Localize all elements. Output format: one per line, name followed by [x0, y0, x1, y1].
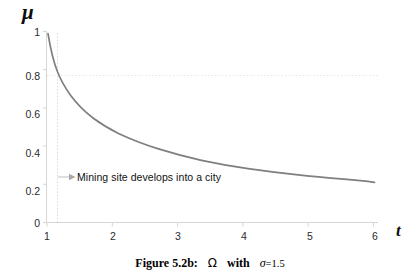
annotation-arrow-icon [58, 174, 76, 180]
x-axis-ticks [47, 223, 374, 227]
caption-omega-symbol: Ω [208, 256, 217, 270]
plot-area [0, 0, 420, 280]
figure-caption: Figure 5.2b:Ωwithσ=1.5 [0, 256, 420, 271]
omega-curve [48, 34, 375, 183]
y-axis-ticks [43, 32, 47, 223]
caption-sigma-value: 1.5 [272, 258, 285, 269]
mining-site-annotation-label: Mining site develops into a city [77, 171, 221, 183]
figure-container: μ t 1 0.8 0.6 0.4 0.2 0 1 2 3 4 5 6 [0, 0, 420, 280]
caption-with-word: with [227, 256, 250, 270]
caption-figure-number: Figure 5.2b: [135, 256, 197, 270]
